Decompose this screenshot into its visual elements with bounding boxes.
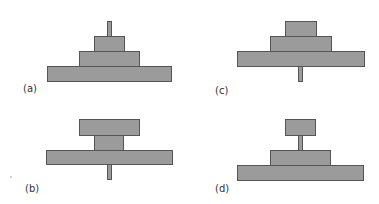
block-c-middle [270, 36, 332, 52]
pin-b [107, 164, 112, 180]
panel-label-d: (d) [215, 184, 229, 194]
panel-label-c: (c) [215, 86, 228, 96]
pin-a [107, 21, 112, 37]
speck [10, 176, 12, 178]
block-a-middle [79, 51, 140, 67]
block-b-top [79, 119, 140, 136]
block-d-top [285, 119, 316, 136]
block-d-bottom [237, 165, 364, 181]
pin-d [298, 135, 303, 151]
panel-label-a: (a) [23, 84, 37, 94]
block-b-bottom [46, 150, 173, 165]
panel-label-b: (b) [25, 184, 39, 194]
diagram-figure: (a) (b) (c) (d) [0, 0, 379, 204]
block-a-bottom [47, 66, 172, 82]
block-c-bottom [237, 51, 365, 67]
block-b-middle [94, 135, 124, 151]
block-c-top [285, 21, 317, 37]
pin-c [298, 66, 303, 82]
block-a-top [94, 36, 125, 52]
block-d-middle [270, 150, 331, 166]
